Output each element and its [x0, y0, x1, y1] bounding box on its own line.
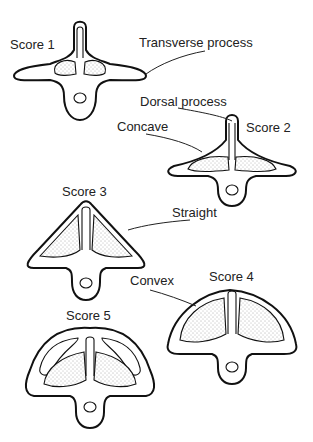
label-score-1: Score 1: [10, 37, 55, 52]
label-score-5: Score 5: [66, 308, 111, 323]
diagram-canvas: Score 1 Transverse process Dorsal proces…: [0, 0, 313, 442]
label-score-3: Score 3: [62, 184, 107, 199]
label-score-4: Score 4: [209, 269, 254, 284]
diagram: Score 1 Transverse process Dorsal proces…: [0, 0, 313, 442]
leader-straight: [128, 220, 190, 230]
label-straight: Straight: [172, 205, 217, 220]
label-dorsal-process: Dorsal process: [140, 94, 227, 109]
leader-concave: [146, 134, 202, 152]
vertebra-score-4: [168, 290, 297, 384]
label-score-2: Score 2: [246, 120, 291, 135]
leader-convex: [150, 290, 196, 306]
label-convex: Convex: [130, 273, 175, 288]
leader-transverse-process: [146, 51, 205, 74]
label-transverse-process: Transverse process: [139, 35, 253, 50]
leader-dorsal-process: [178, 108, 232, 121]
vertebra-score-5: [26, 328, 154, 428]
label-concave: Concave: [117, 119, 168, 134]
vertebra-score-3: [28, 201, 145, 300]
